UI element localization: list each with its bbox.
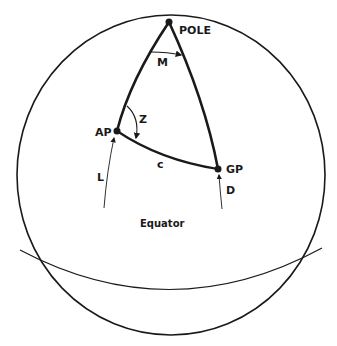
assumed-position-label: AP: [95, 126, 112, 139]
ap-point: [114, 128, 121, 135]
equator-label: Equator: [140, 218, 185, 229]
meridian-angle-arrow: [151, 52, 181, 55]
celestial-sphere-diagram: POLE M Z AP GP c L D Equator: [0, 0, 337, 346]
latitude-label: L: [97, 171, 104, 184]
gp-point: [215, 166, 222, 173]
declination-arrow: [219, 175, 222, 209]
geographic-position-label: GP: [226, 163, 243, 176]
azimuth-angle-label: Z: [139, 113, 147, 126]
azimuth-angle-arrow: [127, 106, 137, 138]
sphere-outline: [17, 15, 325, 335]
distance-arc-label: c: [157, 158, 164, 171]
pole-label: POLE: [179, 24, 211, 37]
latitude-arrow: [104, 138, 114, 208]
declination-label: D: [226, 184, 235, 197]
ap-to-gp-side: [117, 131, 218, 169]
meridian-angle-label: M: [157, 56, 168, 69]
equator-line: [20, 248, 322, 290]
pole-to-gp-side: [169, 22, 218, 169]
pole-point: [166, 19, 173, 26]
